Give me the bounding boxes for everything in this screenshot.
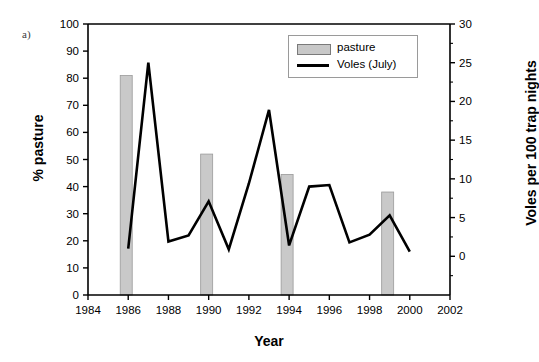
legend-bar-swatch-icon [297,44,331,55]
y2-tick-label: 10 [459,173,472,185]
bar [120,75,132,295]
y-tick-label: 30 [66,208,79,220]
x-tick-label: 1988 [156,304,182,316]
y-tick-label: 70 [66,99,79,111]
x-tick-label: 1994 [276,304,302,316]
y-tick-label: 10 [66,262,79,274]
line-series-voles [128,63,410,252]
x-tick-label: 1992 [236,304,262,316]
y-tick-label: 50 [66,154,79,166]
y-tick-label: 80 [66,72,79,84]
bar [382,192,394,295]
bar [201,154,213,295]
x-tick-label: 2002 [437,304,463,316]
y-tick-label: 90 [66,45,79,57]
chart-legend: pasture Voles (July) [288,35,418,78]
y2-tick-label: 5 [459,212,465,224]
y2-tick-label: 20 [459,95,472,107]
y2-tick-label: 25 [459,57,472,69]
y-tick-label: 100 [60,18,79,30]
y2-tick-label: 0 [459,250,465,262]
vole-line [128,63,410,252]
x-tick-label: 1986 [115,304,141,316]
y2-tick-label: 15 [459,134,472,146]
x-tick-label: 1996 [317,304,343,316]
y-tick-label: 60 [66,126,79,138]
legend-label-voles: Voles (July) [337,58,396,70]
x-tick-label: 1998 [357,304,383,316]
x-tick-label: 1984 [75,304,101,316]
y-tick-label: 20 [66,235,79,247]
x-tick-label: 1990 [196,304,222,316]
x-tick-label: 2000 [397,304,423,316]
legend-line-swatch-icon [297,64,329,67]
y-tick-label: 40 [66,181,79,193]
y-tick-label: 0 [73,289,79,301]
y2-tick-label: 30 [459,18,472,30]
legend-label-pasture: pasture [337,41,375,53]
